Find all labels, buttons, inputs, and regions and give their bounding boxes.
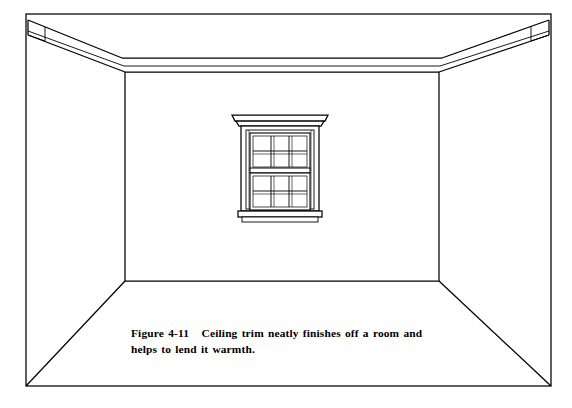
window-sill — [238, 211, 322, 217]
window-apron — [242, 217, 318, 222]
window-head-casing-bed — [236, 121, 324, 126]
lower-sash — [250, 173, 310, 210]
window-meeting-rail — [250, 168, 310, 173]
lower-sash-glass-area — [253, 176, 307, 207]
upper-sash — [250, 133, 310, 170]
window — [232, 115, 328, 222]
window-head-casing-cap — [232, 115, 328, 121]
figure-caption-label: Figure 4-11 — [131, 327, 189, 339]
figure-illustration: Figure 4-11 Ceiling trim neatly finishes… — [0, 0, 572, 408]
figure-caption-gap — [189, 327, 202, 339]
figure-caption: Figure 4-11 Ceiling trim neatly finishes… — [131, 326, 431, 357]
upper-sash-glass-area — [253, 136, 307, 167]
